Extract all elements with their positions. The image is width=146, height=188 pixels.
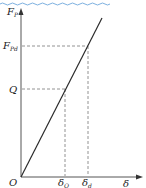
fpd-label: FPd <box>2 40 18 52</box>
q-label: Q <box>9 84 17 95</box>
load-deflection-line <box>21 18 102 177</box>
load-deflection-diagram: FP FPd Q O δQ δd δ <box>0 0 146 188</box>
y-axis-label: FP <box>6 6 19 18</box>
x-axis-label: δ <box>123 178 129 188</box>
origin-label: O <box>9 177 17 188</box>
y-axis-arrow-icon <box>19 8 24 15</box>
x-axis-arrow-icon <box>136 175 143 180</box>
delta-q-label: δQ <box>58 177 69 188</box>
wavy-border <box>0 3 110 5</box>
delta-d-label: δd <box>82 177 92 188</box>
